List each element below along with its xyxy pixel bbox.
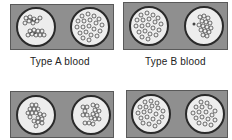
dish-clumped [71, 95, 111, 135]
panel-type-b [123, 2, 228, 50]
dish-clumped [16, 7, 56, 47]
label-type-b: Type B blood [145, 56, 206, 67]
label-type-a: Type A blood [30, 56, 90, 67]
clumped-cells-icon [18, 97, 54, 133]
dispersed-cells-icon [72, 9, 108, 45]
dish-dispersed [129, 6, 169, 46]
clumped-cells-icon [186, 8, 222, 44]
dish-dispersed [70, 7, 110, 47]
panel-type-ab [10, 91, 114, 138]
dish-dispersed [131, 94, 171, 134]
dish-dispersed [185, 94, 225, 134]
clumped-cells-icon [73, 97, 109, 133]
dish-clumped [16, 95, 56, 135]
dispersed-cells-icon [131, 8, 167, 44]
clumped-cells-icon [18, 9, 54, 45]
dish-clumped [184, 6, 224, 46]
panel-type-a [10, 4, 114, 50]
dispersed-cells-icon [187, 96, 223, 132]
dispersed-cells-icon [133, 96, 169, 132]
panel-type-o [126, 90, 228, 138]
